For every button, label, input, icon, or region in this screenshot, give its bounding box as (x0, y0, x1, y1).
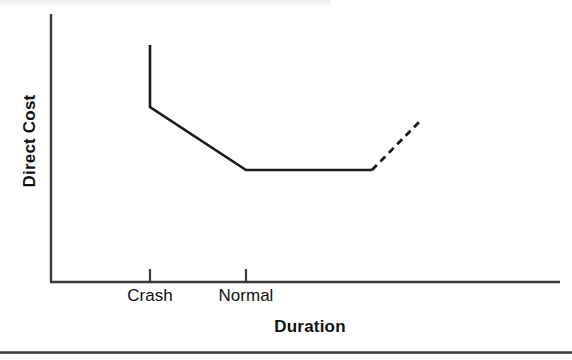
direct-cost-curve-solid (150, 45, 372, 170)
direct-cost-curve-dashed (372, 119, 422, 170)
chart-figure: Direct Cost Crash Normal Duration (0, 0, 572, 360)
x-tick-label-normal: Normal (196, 286, 296, 306)
x-tick-label-crash: Crash (100, 286, 200, 306)
page-divider-rule (0, 351, 572, 354)
direct-cost-vs-duration-plot (0, 0, 572, 360)
x-axis-title: Duration (50, 317, 570, 337)
